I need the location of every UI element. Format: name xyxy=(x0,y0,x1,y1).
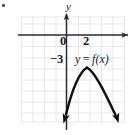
y-tick-label-neg3: −3 xyxy=(50,53,63,66)
function-label-operator: = xyxy=(83,52,90,66)
x-tick-label-2: 2 xyxy=(83,35,89,48)
graph-canvas xyxy=(0,0,136,135)
parabola-curve xyxy=(63,68,119,124)
function-label-lhs: y xyxy=(75,52,80,66)
grid-lines xyxy=(22,16,125,122)
x-tick-label-0: 0 xyxy=(60,35,66,48)
function-label-rhs: f(x) xyxy=(92,52,109,66)
y-axis-label: y xyxy=(66,1,71,12)
graph-figure: y 0 2 −3 y=f(x) xyxy=(0,0,136,135)
x-axis xyxy=(18,32,128,37)
function-label: y=f(x) xyxy=(75,53,109,65)
